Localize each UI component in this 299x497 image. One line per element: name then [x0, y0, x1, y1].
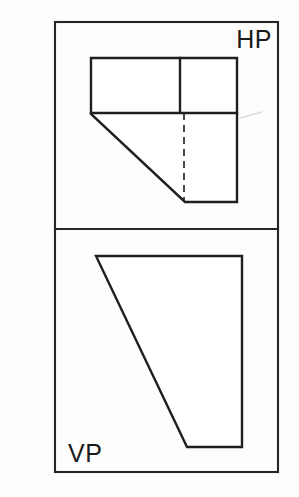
vp-view-label: VP: [68, 439, 102, 467]
orthographic-drawing-canvas: HP VP: [0, 0, 299, 497]
hp-view-label: HP: [236, 25, 272, 53]
drawing-sheet: HP VP: [0, 0, 299, 497]
